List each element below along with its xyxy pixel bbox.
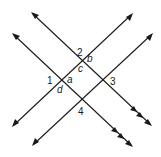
parallel-mark-icon — [136, 112, 143, 118]
label-angle-b: b — [87, 53, 93, 64]
line-c — [12, 13, 133, 127]
arrowhead-sw-icon — [32, 138, 39, 146]
parallel-mark-icon — [117, 133, 124, 139]
arrowhead-ne-icon — [146, 33, 153, 41]
line-d — [32, 33, 153, 146]
label-angle-a: a — [67, 74, 73, 85]
line-b — [12, 33, 133, 147]
parallel-lines-diagram: 2 b c 1 a d 3 4 — [0, 0, 161, 157]
line-a — [31, 12, 152, 126]
label-angle-3: 3 — [110, 76, 116, 87]
arrowhead-sw-icon — [12, 119, 19, 127]
label-angle-c: c — [78, 63, 83, 74]
label-angle-4: 4 — [78, 106, 84, 117]
label-angle-1: 1 — [47, 75, 53, 86]
label-angle-2: 2 — [77, 47, 83, 58]
label-angle-d: d — [57, 84, 63, 95]
arrowhead-ne-icon — [126, 13, 133, 21]
